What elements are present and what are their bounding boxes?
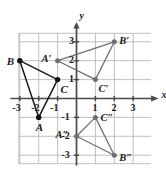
vertex-label-A'B'C'-2: C′: [98, 84, 108, 95]
y-tick-label-4: -2: [62, 131, 70, 141]
vertex-label-ABC-2: C: [61, 84, 68, 95]
x-tick-label-4: 2: [112, 103, 117, 113]
x-tick-label-1: -2: [31, 103, 39, 113]
vertex-label-A'B'C'-1: B′: [119, 36, 129, 47]
y-axis-label: y: [80, 11, 84, 21]
vertex-label-ABC-0: A: [36, 122, 43, 133]
vertex-point-C′: [93, 77, 98, 82]
x-tick-label-3: 1: [93, 103, 98, 113]
y-tick-label-2: 1: [69, 74, 74, 84]
vertex-point-B′: [112, 39, 117, 44]
coordinate-plane-figure: ABCA′B′C′A″B″C″-3-2-1123321-1-2-3xy: [0, 0, 166, 170]
vertex-point-A: [36, 115, 41, 120]
vertex-label-A''B''C''-1: B″: [119, 153, 132, 164]
y-tick-label-3: -1: [62, 112, 70, 122]
vertex-label-A''B''C''-2: C″: [100, 113, 113, 124]
y-tick-label-5: -3: [62, 150, 70, 160]
plot-svg: [0, 0, 166, 170]
vertex-point-B″: [112, 153, 117, 158]
vertex-point-B: [17, 58, 22, 63]
vertex-point-C″: [93, 115, 98, 120]
y-tick-label-1: 2: [69, 55, 74, 65]
vertex-point-C: [55, 77, 60, 82]
x-tick-label-2: -1: [50, 103, 58, 113]
vertex-label-A'B'C'-0: A′: [42, 54, 52, 65]
x-axis-label: x: [162, 90, 166, 100]
y-tick-label-0: 3: [69, 36, 74, 46]
vertex-point-A′: [55, 58, 60, 63]
vertex-point-A″: [74, 134, 79, 139]
vertex-label-ABC-1: B: [7, 56, 14, 67]
x-tick-label-0: -3: [12, 103, 20, 113]
axes: [10, 22, 158, 166]
x-tick-label-5: 3: [130, 103, 135, 113]
